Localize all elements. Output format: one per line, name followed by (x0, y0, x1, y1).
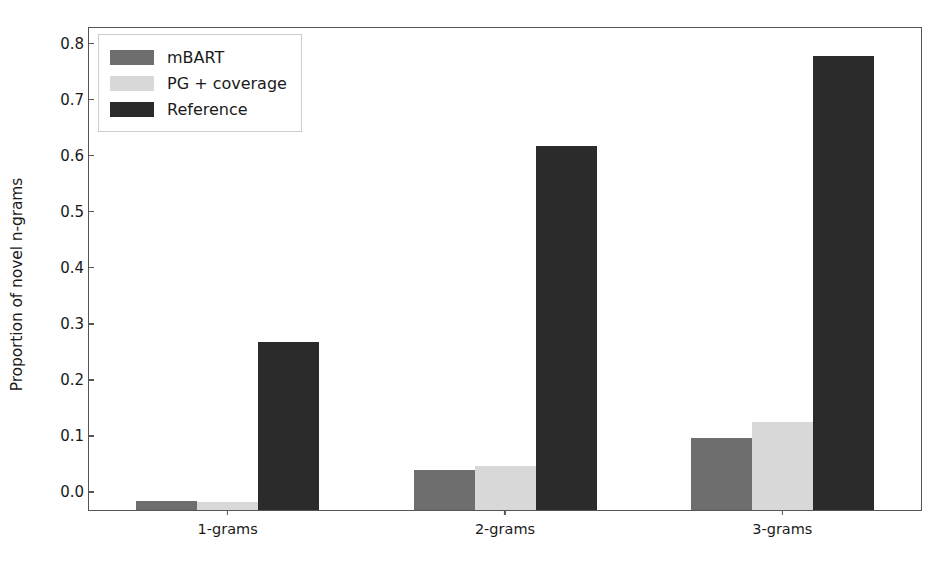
y-axis-tick: 0.6 (60, 147, 89, 165)
bar (475, 466, 536, 510)
y-axis-tick-mark (89, 211, 94, 212)
x-axis-tick: 1-grams (198, 510, 258, 537)
y-axis-tick-label: 0.5 (60, 203, 89, 221)
y-axis-tick: 0.2 (60, 371, 89, 389)
legend-item: Reference (110, 96, 287, 122)
legend-label: PG + coverage (167, 74, 287, 93)
y-axis-tick-label: 0.4 (60, 259, 89, 277)
legend-swatch (110, 102, 154, 117)
bar (536, 146, 597, 510)
y-axis-tick-mark (89, 491, 94, 492)
x-axis-tick-label: 3-grams (752, 515, 812, 537)
y-axis-tick-label: 0.1 (60, 427, 89, 445)
y-axis-tick-label: 0.7 (60, 91, 89, 109)
bar (197, 502, 258, 510)
legend-swatch (110, 50, 154, 65)
y-axis-tick: 0.0 (60, 483, 89, 501)
x-axis-tick-label: 1-grams (198, 515, 258, 537)
y-axis-tick-mark (89, 323, 94, 324)
y-axis-tick-mark (89, 43, 94, 44)
y-axis-tick-mark (89, 267, 94, 268)
y-axis-tick-mark (89, 435, 94, 436)
bar (414, 470, 475, 510)
legend-label: Reference (167, 100, 248, 119)
y-axis-tick-label: 0.3 (60, 315, 89, 333)
y-axis-tick-mark (89, 155, 94, 156)
y-axis-tick-label: 0.0 (60, 483, 89, 501)
y-axis-label: Proportion of novel n-grams (0, 0, 34, 569)
y-axis-tick-mark (89, 379, 94, 380)
bar-chart-figure: Proportion of novel n-grams 0.00.10.20.3… (0, 0, 950, 569)
y-axis-tick: 0.3 (60, 315, 89, 333)
y-axis-tick: 0.1 (60, 427, 89, 445)
y-axis-tick-mark (89, 99, 94, 100)
y-axis-tick: 0.4 (60, 259, 89, 277)
legend-label: mBART (167, 48, 224, 67)
bar (258, 342, 319, 510)
bar (752, 422, 813, 510)
chart-legend: mBARTPG + coverageReference (98, 34, 302, 132)
y-axis-tick-label: 0.2 (60, 371, 89, 389)
y-axis-tick-label: 0.8 (60, 35, 89, 53)
plot-frame: 0.00.10.20.30.40.50.60.70.81-grams2-gram… (88, 27, 922, 511)
y-axis-tick-label: 0.6 (60, 147, 89, 165)
legend-item: mBART (110, 44, 287, 70)
bar (136, 501, 197, 510)
x-axis-tick: 3-grams (752, 510, 812, 537)
bar (813, 56, 874, 510)
y-axis-tick: 0.7 (60, 91, 89, 109)
x-axis-tick: 2-grams (475, 510, 535, 537)
legend-item: PG + coverage (110, 70, 287, 96)
y-axis-tick: 0.5 (60, 203, 89, 221)
legend-swatch (110, 76, 154, 91)
bar (691, 438, 752, 510)
y-axis-tick: 0.8 (60, 35, 89, 53)
x-axis-tick-label: 2-grams (475, 515, 535, 537)
